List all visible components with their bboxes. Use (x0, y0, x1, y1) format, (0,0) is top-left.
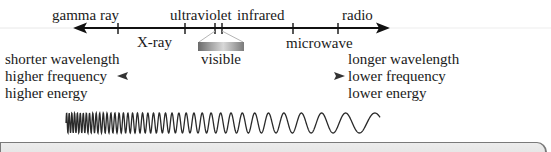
label-infrared: infrared (237, 8, 284, 23)
caption-box (0, 142, 547, 152)
right-property-frequency: lower frequency (348, 69, 446, 84)
right-property-wavelength: longer wavelength (348, 52, 459, 67)
visible-connector-lines (199, 31, 243, 42)
label-radio: radio (342, 8, 373, 23)
label-x-ray: X-ray (137, 35, 172, 50)
label-microwave: microwave (286, 36, 353, 51)
left-property-frequency: higher frequency (5, 69, 107, 84)
label-visible: visible (201, 52, 241, 67)
spectrum-axis (73, 23, 390, 34)
property-arrow (117, 72, 345, 80)
label-ultraviolet: ultraviolet (170, 8, 232, 23)
left-property-energy: higher energy (5, 86, 88, 101)
label-gamma-ray: gamma ray (52, 8, 119, 23)
right-property-energy: lower energy (348, 86, 426, 101)
visible-spectrum-band (198, 42, 244, 51)
wave-graphic (66, 113, 380, 133)
left-property-wavelength: shorter wavelength (5, 52, 120, 67)
